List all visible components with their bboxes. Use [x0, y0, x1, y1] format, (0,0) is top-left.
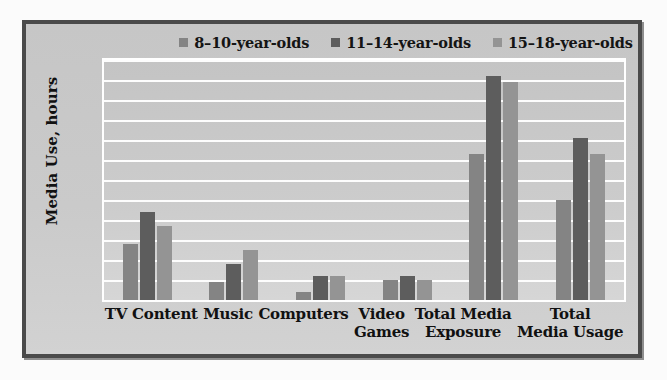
bar-group: [209, 60, 258, 300]
legend-label-series-3: 15–18-year-olds: [508, 34, 633, 51]
y-axis-title: Media Use, hours: [43, 51, 61, 251]
bar: [417, 280, 432, 300]
bar: [243, 250, 258, 300]
legend-entry-series-1: 8–10-year-olds: [179, 34, 309, 51]
legend-label-series-1: 8–10-year-olds: [194, 34, 309, 51]
bar-group: [383, 60, 432, 300]
bar-group: [123, 60, 172, 300]
legend-swatch-series-2: [331, 38, 340, 47]
bar: [313, 276, 328, 300]
plot-area: 12:0010:008:006:004:002:00: [102, 58, 626, 302]
bar: [590, 154, 605, 300]
legend-swatch-series-3: [493, 38, 502, 47]
x-axis-labels: TV ContentMusicComputersVideo GamesTotal…: [102, 304, 626, 360]
bar: [140, 212, 155, 300]
x-axis-group-label: Music: [203, 304, 253, 360]
bar: [330, 276, 345, 300]
figure: 8–10-year-olds 11–14-year-olds 15–18-yea…: [0, 0, 667, 380]
bar: [556, 200, 571, 300]
bar: [296, 292, 311, 300]
x-axis-group-label: TV Content: [105, 304, 198, 360]
chart-inner-background: 8–10-year-olds 11–14-year-olds 15–18-yea…: [26, 24, 638, 354]
bar: [209, 282, 224, 300]
x-axis-group-label: Total Media Exposure: [415, 304, 512, 360]
legend-label-series-2: 11–14-year-olds: [346, 34, 471, 51]
x-axis-group-label: Computers: [258, 304, 348, 360]
x-axis-group-label: Total Media Usage: [517, 304, 623, 360]
bar: [123, 244, 138, 300]
bar-group: [556, 60, 605, 300]
bar: [157, 226, 172, 300]
chart-frame: 8–10-year-olds 11–14-year-olds 15–18-yea…: [22, 20, 642, 358]
legend-entry-series-2: 11–14-year-olds: [331, 34, 471, 51]
bar-groups: [104, 60, 624, 300]
x-axis-group-label: Video Games: [354, 304, 409, 360]
bar-group: [296, 60, 345, 300]
legend-entry-series-3: 15–18-year-olds: [493, 34, 633, 51]
bar: [226, 264, 241, 300]
bar: [486, 76, 501, 300]
legend-swatch-series-1: [179, 38, 188, 47]
bar: [503, 82, 518, 300]
bar-group: [469, 60, 518, 300]
bar: [573, 138, 588, 300]
chart-legend: 8–10-year-olds 11–14-year-olds 15–18-yea…: [176, 30, 636, 54]
bar: [400, 276, 415, 300]
bar: [469, 154, 484, 300]
bar: [383, 280, 398, 300]
plot-wrapper: 12:0010:008:006:004:002:00: [102, 58, 626, 302]
